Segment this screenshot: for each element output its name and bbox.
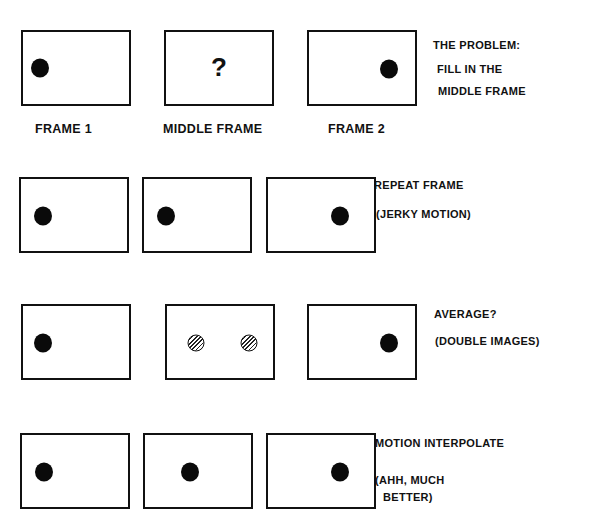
- frame-2-box: [307, 30, 417, 106]
- problem-note-line-1: THE PROBLEM:: [433, 40, 520, 51]
- problem-note-line-3: MIDDLE FRAME: [438, 86, 526, 97]
- frame-1-box: [19, 177, 129, 253]
- frame-1-box: [20, 433, 130, 509]
- ball-icon: [380, 334, 398, 353]
- frame-1-box: [21, 304, 131, 380]
- ball-icon: [331, 463, 349, 482]
- ball-icon: [157, 207, 175, 226]
- ball-icon: [380, 60, 398, 79]
- repeat-note-line-1: REPEAT FRAME: [374, 180, 464, 191]
- ghost-ball-left-icon: [188, 335, 205, 352]
- middle-frame-box: [142, 177, 252, 253]
- ball-icon: [34, 334, 52, 353]
- ball-icon: [34, 207, 52, 226]
- middle-frame-box: ?: [164, 30, 274, 106]
- interpolate-note-line-3: BETTER): [383, 492, 433, 503]
- frame-2-box: [307, 304, 417, 380]
- repeat-note-line-2: (JERKY MOTION): [376, 209, 471, 220]
- ball-icon: [35, 463, 53, 482]
- ball-icon: [181, 463, 199, 482]
- average-note-line-1: AVERAGE?: [434, 309, 497, 320]
- label-frame-2: FRAME 2: [328, 122, 385, 136]
- middle-frame-box: [143, 433, 253, 509]
- label-frame-1: FRAME 1: [35, 122, 92, 136]
- middle-frame-box: [165, 304, 275, 380]
- ghost-ball-right-icon: [241, 335, 258, 352]
- interpolate-note-line-2: (AHH, MUCH: [375, 475, 445, 486]
- ball-icon: [31, 59, 49, 78]
- ball-icon: [331, 207, 349, 226]
- frame-2-box: [266, 433, 376, 509]
- question-mark: ?: [211, 52, 227, 83]
- frame-2-box: [266, 177, 376, 253]
- average-note-line-2: (DOUBLE IMAGES): [435, 336, 540, 347]
- problem-note-line-2: FILL IN THE: [437, 64, 502, 75]
- frame-1-box: [21, 30, 131, 106]
- label-middle-frame: MIDDLE FRAME: [163, 122, 262, 136]
- interpolate-note-line-1: MOTION INTERPOLATE: [375, 438, 504, 449]
